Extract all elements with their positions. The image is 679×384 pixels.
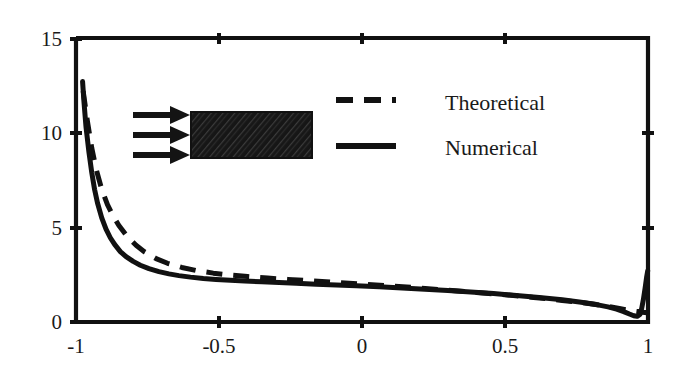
y-axis-label-5: 5 <box>20 218 62 239</box>
y-axis-label-10: 10 <box>20 123 62 144</box>
y-axis-label-15: 15 <box>20 29 62 50</box>
legend-label-theoretical: Theoretical <box>445 90 545 116</box>
plot-canvas <box>0 0 679 384</box>
axis-frame <box>76 38 648 322</box>
chart-figure: 0 5 10 15 -1 -0.5 0 0.5 1 Theoretical Nu… <box>0 0 679 384</box>
flow-arrow-3 <box>133 146 190 164</box>
legend-label-numerical: Numerical <box>445 135 538 161</box>
series-line-theoretical <box>83 91 648 313</box>
flow-arrow-1 <box>133 106 190 124</box>
x-axis-label-neg1: -1 <box>67 336 85 357</box>
x-axis-label-0p5: 0.5 <box>492 336 518 357</box>
hatched-body-icon <box>191 112 312 158</box>
x-axis-label-1: 1 <box>643 336 654 357</box>
y-axis-label-0: 0 <box>20 312 62 333</box>
y-tick-marks <box>70 39 654 322</box>
flow-arrows-icon <box>133 106 190 164</box>
flow-arrow-2 <box>133 126 190 144</box>
plot-border <box>76 38 648 322</box>
x-axis-label-neg0p5: -0.5 <box>202 336 235 357</box>
x-axis-label-0: 0 <box>357 336 368 357</box>
